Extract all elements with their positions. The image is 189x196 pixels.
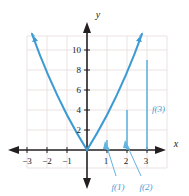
callout-label-f3: f(3): [152, 104, 165, 114]
y-tick-label-4: 4: [77, 105, 82, 115]
x-axis-arrow-right: [155, 146, 166, 154]
grid: [27, 36, 167, 168]
x-tick-label-2: 2: [124, 156, 129, 166]
y-axis-arrow-down: [83, 178, 91, 189]
y-tick-label-6: 6: [77, 85, 82, 95]
x-tick-label-neg3: −3: [22, 156, 32, 166]
x-axis-label: x: [173, 138, 179, 149]
x-tick-label-1: 1: [104, 156, 109, 166]
y-tick-label-2: 2: [77, 125, 82, 135]
x-axis-arrow-left: [8, 146, 19, 154]
y-axis-label: y: [95, 9, 101, 20]
x-tick-label-neg2: −2: [42, 156, 52, 166]
y-axis-arrow-up: [83, 22, 91, 33]
axes: [12, 28, 160, 182]
function-graph-figure: 2 4 6 8 10 −3 −2 −1 1 2 3 y x f(3) f(1) …: [0, 0, 189, 196]
y-tick-label-10: 10: [72, 45, 82, 55]
x-tick-label-3: 3: [144, 156, 149, 166]
callout-label-f1: f(1): [112, 182, 125, 192]
y-tick-label-8: 8: [77, 65, 82, 75]
callout-label-f2: f(2): [140, 182, 153, 192]
x-tick-label-neg1: −1: [62, 156, 72, 166]
